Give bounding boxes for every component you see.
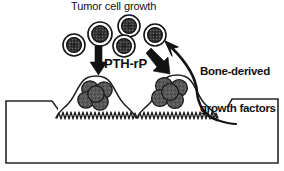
title-tumor-cell-growth: Tumor cell growth — [71, 1, 156, 13]
free-tumor-cell-1 — [63, 34, 85, 56]
free-tumor-cell-2 — [88, 22, 112, 46]
right-lesion-cell-cluster — [152, 78, 188, 109]
lesion-cell-l5 — [88, 86, 104, 102]
bone-factors-line-1: Bone-derived — [200, 65, 276, 77]
pthrp-label: PTH-rP — [104, 57, 147, 71]
free-tumor-cell-4 — [113, 35, 135, 57]
left-lesion-cell-cluster — [78, 81, 112, 110]
free-tumor-cell-3 — [118, 15, 140, 37]
bone-derived-growth-factors-label: Bone-derived growth factors — [200, 40, 276, 139]
osteoclast-left — [56, 76, 137, 119]
free-tumor-cell-5 — [144, 24, 166, 46]
figure-canvas: Tumor cell growth PTH-rP Bone-derived gr… — [0, 0, 284, 171]
pthrp-arrow-diagonal — [146, 48, 170, 74]
bone-factors-line-2: growth factors — [200, 102, 276, 114]
lesion-cell-r5 — [162, 84, 179, 101]
